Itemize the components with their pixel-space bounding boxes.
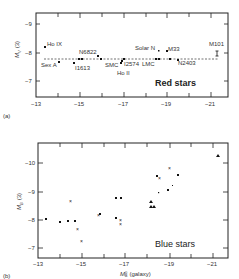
panel-a-xtick-label: −15 bbox=[74, 101, 85, 107]
panel-b-y-axis-label: MB(3) bbox=[16, 193, 24, 210]
point-label-lmc: LMC bbox=[142, 61, 155, 67]
data-point-x: × bbox=[168, 165, 171, 171]
panel-b-ytick-label: −9 bbox=[28, 189, 36, 195]
data-point-i2574 bbox=[121, 60, 123, 62]
panel-a-y-axis-label: MV(3) bbox=[14, 41, 22, 58]
point-label-i1613: I1613 bbox=[75, 65, 91, 71]
panel-b-top-ticks bbox=[60, 143, 213, 148]
panel-a-frame bbox=[36, 13, 228, 97]
point-label-m33: M33 bbox=[168, 46, 180, 52]
point-label-n6822: N6822 bbox=[79, 49, 97, 55]
svg-text:MV(3): MV(3) bbox=[14, 41, 22, 58]
panel-b: −10 −9 −8 −7 −13 −15 −17 −19 −21 M0B(gal… bbox=[3, 143, 228, 279]
data-point bbox=[123, 58, 125, 60]
data-point-ho-ix bbox=[44, 46, 46, 48]
panel-a-ytick-label: −9 bbox=[25, 21, 33, 27]
panel-a-ytick-label: −8 bbox=[25, 50, 33, 56]
point-label-ho-ix: Ho IX bbox=[47, 41, 62, 47]
data-point bbox=[78, 58, 80, 60]
figure: −9 −8 −7 −13 −15 −17 −19 −21 MV(3) (a) bbox=[0, 0, 239, 279]
data-point-sex-a bbox=[58, 61, 60, 63]
panel-b-title: Blue stars bbox=[155, 239, 196, 249]
panel-a-top-ticks bbox=[58, 13, 211, 18]
panel-a-y-ticks bbox=[36, 24, 228, 81]
point-label-ho-ii: Ho II bbox=[117, 70, 130, 76]
data-point bbox=[67, 220, 69, 222]
panel-b-xtick-label: −19 bbox=[164, 261, 175, 267]
data-point bbox=[81, 58, 83, 60]
panel-a-xtick-label: −13 bbox=[31, 101, 42, 107]
data-point-smc bbox=[120, 62, 122, 64]
data-point-x: × bbox=[158, 175, 161, 181]
data-point bbox=[115, 217, 117, 219]
panel-b-xtick-label: −15 bbox=[76, 261, 87, 267]
point-label-i2574: I2574 bbox=[124, 61, 140, 67]
point-label-smc: SMC bbox=[105, 62, 119, 68]
panel-a-xtick-label: −19 bbox=[161, 101, 172, 107]
data-point-lmc bbox=[155, 58, 157, 60]
data-point bbox=[45, 218, 47, 220]
panel-b-y-ticks bbox=[38, 163, 228, 248]
data-point-small bbox=[158, 192, 159, 193]
panel-b-xtick-label: −13 bbox=[33, 261, 44, 267]
panel-a-xtick-label: −21 bbox=[205, 101, 216, 107]
data-point bbox=[100, 58, 102, 60]
panel-b-xtick-label: −21 bbox=[207, 261, 218, 267]
panel-b-points: × × × × × × × × bbox=[45, 154, 220, 244]
panel-b-x-axis-label: M0B(galaxy) bbox=[120, 270, 151, 278]
panel-b-ytick-label: −8 bbox=[28, 217, 36, 223]
panel-b-ytick-label: −7 bbox=[28, 245, 36, 251]
data-point bbox=[74, 220, 76, 222]
data-point-triangle bbox=[152, 205, 156, 208]
data-point bbox=[120, 197, 122, 199]
data-point-triangle bbox=[149, 200, 153, 203]
data-point-x: × bbox=[69, 198, 72, 204]
panel-b-frame bbox=[38, 143, 228, 258]
panel-b-ytick-label: −10 bbox=[25, 160, 36, 166]
data-point bbox=[169, 58, 171, 60]
point-label-sex-a: Sex A bbox=[41, 62, 57, 68]
data-point bbox=[99, 213, 101, 215]
data-point bbox=[59, 221, 61, 223]
panel-b-label: (b) bbox=[3, 273, 10, 279]
panel-a-label: (a) bbox=[3, 113, 10, 119]
panel-b-xtick-label: −17 bbox=[119, 261, 130, 267]
panel-a-ytick-label: −7 bbox=[25, 78, 33, 84]
data-point bbox=[177, 174, 179, 176]
svg-text:MB(3): MB(3) bbox=[16, 193, 24, 210]
data-point bbox=[115, 197, 117, 199]
panel-a-xtick-label: −17 bbox=[118, 101, 129, 107]
point-label-solar-n: Solar N bbox=[135, 45, 155, 51]
point-label-n2403: N2403 bbox=[178, 60, 196, 66]
data-point-x: × bbox=[119, 221, 122, 227]
panel-a: −9 −8 −7 −13 −15 −17 −19 −21 MV(3) (a) bbox=[3, 13, 228, 119]
data-point-triangle bbox=[216, 154, 220, 157]
panel-b-bottom-ticks bbox=[60, 253, 213, 258]
data-point bbox=[158, 58, 160, 60]
panel-a-bottom-ticks bbox=[58, 92, 211, 97]
data-point-x: × bbox=[80, 238, 83, 244]
data-point bbox=[167, 189, 169, 191]
data-point-solar-n bbox=[158, 50, 160, 52]
data-point-x: × bbox=[76, 226, 79, 232]
data-point-small bbox=[172, 185, 173, 186]
panel-a-title: Red stars bbox=[155, 78, 196, 88]
point-label-m101: M101 bbox=[209, 41, 225, 47]
data-point-i1613 bbox=[73, 62, 75, 64]
data-point-n6822 bbox=[97, 55, 99, 57]
